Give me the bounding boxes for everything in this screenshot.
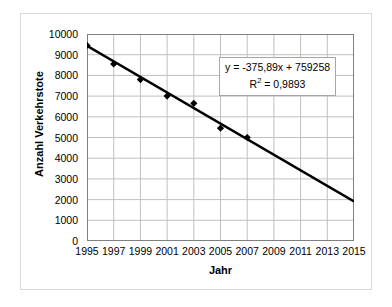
y-axis-tick-label: 6000 xyxy=(55,112,78,122)
x-axis-tick-label: 2003 xyxy=(182,245,205,257)
y-axis-tick-labels: 0100020003000400050006000700080009000100… xyxy=(21,34,83,241)
x-axis-tick-label: 2005 xyxy=(209,245,232,257)
y-axis-tick-label: 4000 xyxy=(55,153,78,163)
y-axis-title: Anzahl Verkehrstote xyxy=(33,54,45,194)
y-axis-tick-label: 1000 xyxy=(55,215,78,225)
y-axis-tick-label: 9000 xyxy=(55,50,78,60)
y-axis-tick-label: 8000 xyxy=(55,70,78,80)
y-axis-tick-label: 10000 xyxy=(49,29,78,39)
r-squared-value: = 0,9893 xyxy=(261,78,305,90)
y-axis-tick-label: 5000 xyxy=(55,133,78,143)
x-axis-tick-labels: 1995199719992001200320052007200920112013… xyxy=(87,245,354,261)
trendline-equation-box: y = -375,89x + 759258 R2 = 0,9893 xyxy=(219,57,336,96)
trendline-equation-text: y = -375,89x + 759258 xyxy=(225,61,330,74)
y-axis-tick-label: 2000 xyxy=(55,195,78,205)
y-axis-tick-label: 3000 xyxy=(55,174,78,184)
trendline-r-squared-text: R2 = 0,9893 xyxy=(225,74,330,91)
x-axis-tick-label: 2007 xyxy=(236,245,259,257)
x-axis-tick-label: 2013 xyxy=(316,245,339,257)
x-axis-title: Jahr xyxy=(87,264,354,276)
y-axis-tick-label: 7000 xyxy=(55,91,78,101)
x-axis-tick-label: 2011 xyxy=(289,245,312,257)
x-axis-tick-label: 1997 xyxy=(102,245,125,257)
x-axis-tick-label: 2009 xyxy=(262,245,285,257)
x-axis-tick-label: 2001 xyxy=(155,245,178,257)
chart-figure: 0100020003000400050006000700080009000100… xyxy=(20,13,372,290)
x-axis-tick-label: 1999 xyxy=(129,245,152,257)
x-axis-tick-label: 2015 xyxy=(342,245,365,257)
x-axis-tick-label: 1995 xyxy=(75,245,98,257)
